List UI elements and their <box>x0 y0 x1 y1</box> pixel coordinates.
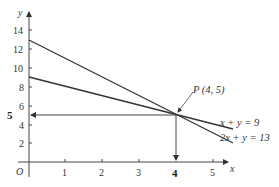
y-tick-6: 6 <box>19 101 24 112</box>
y-tick-8: 8 <box>19 82 24 93</box>
y-tick-4: 4 <box>19 120 24 131</box>
origin-label: O <box>16 166 23 177</box>
x-tick-2: 2 <box>99 167 104 178</box>
y-tick-2: 2 <box>19 138 24 149</box>
y-axis-label: y <box>17 7 23 18</box>
x-tick-5: 5 <box>210 167 215 178</box>
x-axis-label: x <box>229 163 235 174</box>
point-p-label: P (4, 5) <box>192 84 225 96</box>
projection-label-4: 4 <box>172 167 178 179</box>
line-chart: x y O 1 2 3 5 2 4 6 8 10 12 14 5 4 P (4,… <box>0 0 279 187</box>
series-label-2x-plus-y-13: 2x + y = 13 <box>220 132 270 143</box>
x-tick-3: 3 <box>136 167 141 178</box>
x-tick-1: 1 <box>62 167 67 178</box>
series-label-x-plus-y-9: x + y = 9 <box>219 117 260 128</box>
projection-label-5: 5 <box>7 109 13 121</box>
y-tick-10: 10 <box>13 63 23 74</box>
point-p-pointer <box>178 92 193 112</box>
y-tick-12: 12 <box>13 44 23 55</box>
y-tick-14: 14 <box>13 25 23 36</box>
